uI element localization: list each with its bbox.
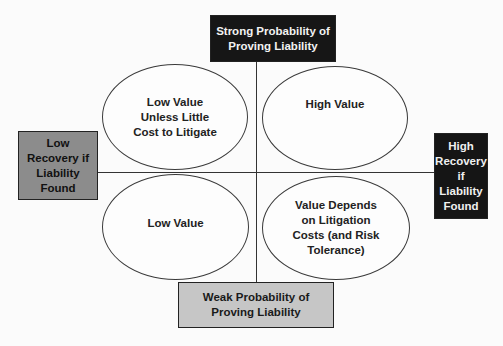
horizontal-axis-line [95, 172, 440, 173]
quadrant-label: Low Value Unless Little Cost to Litigate [133, 95, 217, 140]
axis-label-text: Weak Probability of Proving Liability [203, 290, 310, 320]
axis-label-text: Low Recovery if Liability Found [27, 136, 89, 196]
quadrant-bottom-left: Low Value [102, 174, 249, 280]
quadrant-label: High Value [306, 97, 365, 112]
axis-label-high-recovery: High Recovery if Liability Found [434, 133, 488, 219]
quadrant-label: Value Depends on Litigation Costs (and R… [293, 198, 380, 258]
quadrant-top-left: Low Value Unless Little Cost to Litigate [102, 64, 248, 170]
axis-label-weak-probability: Weak Probability of Proving Liability [178, 282, 334, 328]
axis-label-text: High Recovery if Liability Found [435, 139, 487, 214]
axis-label-text: Strong Probability of Proving Liability [216, 24, 330, 54]
quadrant-bottom-right: Value Depends on Litigation Costs (and R… [262, 176, 410, 280]
axis-label-low-recovery: Low Recovery if Liability Found [18, 131, 98, 200]
quadrant-label: Low Value [147, 216, 203, 231]
vertical-axis-line [256, 60, 257, 286]
quadrant-top-right: High Value [262, 66, 408, 170]
axis-label-strong-probability: Strong Probability of Proving Liability [210, 15, 336, 62]
